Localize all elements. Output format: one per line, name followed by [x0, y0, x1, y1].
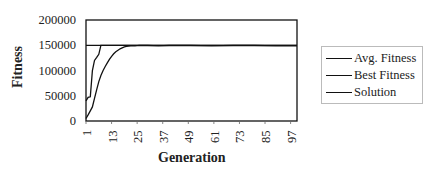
x-tick-label: 49 [182, 131, 197, 144]
fitness-chart: Fitness 200000150000100000500000 1132537… [0, 0, 441, 175]
legend-item-avg-fitness: Avg. Fitness [326, 51, 416, 66]
y-tick-label: 200000 [28, 14, 76, 26]
legend-line-swatch [326, 75, 352, 76]
x-tick-label: 37 [157, 131, 172, 144]
y-tick-label: 150000 [28, 39, 76, 51]
legend: Avg. Fitness Best Fitness Solution [321, 46, 423, 104]
x-tick-label: 61 [208, 131, 223, 144]
legend-line-swatch [326, 58, 352, 59]
x-tick-label: 85 [259, 131, 274, 144]
y-tick-label: 100000 [28, 65, 76, 77]
legend-item-best-fitness: Best Fitness [326, 68, 415, 83]
x-tick-label: 73 [233, 131, 248, 144]
y-tick-label: 0 [28, 115, 76, 127]
legend-item-solution: Solution [326, 85, 396, 100]
series-line-avg-fitness [86, 45, 297, 118]
series-line-best-fitness [86, 45, 297, 101]
legend-line-swatch [326, 92, 352, 93]
x-tick-label: 97 [285, 131, 300, 144]
x-tick-label: 1 [80, 130, 95, 136]
x-tick-label: 25 [131, 131, 146, 144]
y-axis-label: Fitness [10, 46, 26, 88]
y-tick-label: 50000 [28, 90, 76, 102]
x-tick-label: 13 [106, 131, 121, 144]
x-axis-label: Generation [158, 150, 226, 166]
